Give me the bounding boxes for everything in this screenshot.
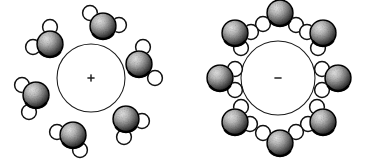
panels-layer (15, 0, 351, 157)
water-molecule (126, 40, 162, 86)
water-molecule (301, 100, 336, 135)
water-molecule (256, 125, 304, 156)
water-molecule (113, 106, 149, 144)
ion-hydration-figure (0, 0, 367, 163)
anion-hydration-shell (207, 0, 351, 156)
water-molecule (15, 78, 49, 120)
figure-canvas (0, 0, 367, 163)
ion-charge-symbol (274, 77, 281, 79)
water-molecule (26, 20, 63, 57)
water-molecule (256, 0, 304, 32)
water-molecule (50, 122, 88, 157)
water-molecule (207, 62, 242, 98)
water-molecule (83, 6, 127, 39)
cation-hydration-shell (15, 6, 163, 158)
water-molecule (315, 62, 351, 98)
water-molecule (300, 20, 336, 55)
